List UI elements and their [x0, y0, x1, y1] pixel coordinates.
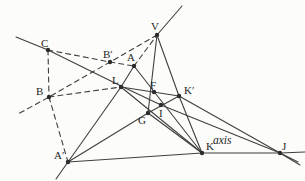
point-label-I: I	[159, 107, 163, 119]
point-dot-V	[155, 33, 159, 37]
point-label-Bp: B′	[103, 48, 113, 60]
geometry-figure: VCB′ALFK′BIGA′KJaxis	[0, 0, 305, 181]
point-label-Ap: A′	[54, 149, 64, 161]
point-dot-Ap	[66, 160, 70, 164]
point-label-A: A	[127, 51, 135, 63]
point-label-J: J	[282, 140, 287, 152]
line-A-F-I-K	[134, 66, 202, 153]
line-Kprime-J	[179, 96, 300, 165]
line-C-L-I-J	[16, 37, 298, 162]
dash-B-L	[49, 87, 121, 97]
point-dot-G	[146, 111, 150, 115]
point-dot-A	[132, 64, 136, 68]
point-dot-B	[47, 95, 51, 99]
line-axis	[68, 152, 305, 162]
point-label-B: B	[36, 85, 43, 97]
point-label-L: L	[112, 74, 119, 86]
point-label-V: V	[151, 20, 159, 32]
point-label-F: F	[150, 79, 156, 91]
line-V-top-extension	[157, 6, 182, 35]
axis-label: axis	[213, 134, 232, 146]
point-dot-K	[200, 151, 204, 155]
point-dot-Kp	[177, 94, 181, 98]
point-label-G: G	[138, 114, 146, 126]
point-dot-L	[119, 85, 123, 89]
dash-C-Bprime-A	[48, 50, 134, 66]
point-dot-Bp	[108, 60, 112, 64]
point-label-C: C	[41, 37, 48, 49]
line-L-K	[121, 87, 202, 153]
figure-canvas: VCB′ALFK′BIGA′KJaxis	[0, 0, 305, 181]
dash-C-B	[48, 50, 49, 97]
point-label-Kp: K′	[184, 84, 194, 96]
